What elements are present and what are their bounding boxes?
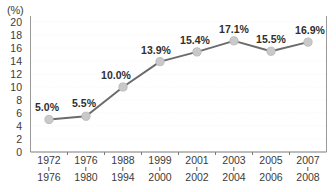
data-point-label: 5.5%: [72, 98, 96, 109]
x-axis-tick-label: 20012002: [185, 154, 208, 184]
data-point-label: 16.9%: [295, 25, 325, 36]
data-point-marker: [193, 48, 201, 56]
data-point-marker: [267, 47, 275, 55]
data-point-marker: [82, 112, 90, 120]
data-point-marker: [119, 83, 127, 91]
x-axis-tick-label: 19992000: [148, 154, 171, 184]
x-tick-year-start: 2001: [185, 154, 208, 167]
data-point-label: 5.0%: [35, 102, 59, 113]
x-tick-year-start: 1976: [74, 154, 97, 167]
x-axis-tick-label: 20052006: [259, 154, 282, 184]
x-axis-tick-label: 20032004: [222, 154, 245, 184]
data-point-label: 15.5%: [256, 34, 286, 45]
data-point-label: 10.0%: [101, 70, 131, 81]
x-tick-year-end: 2002: [185, 171, 208, 184]
data-point-marker: [45, 115, 53, 123]
line-chart: (%) 20181614121086420 5.0%5.5%10.0%13.9%…: [0, 0, 336, 192]
x-tick-year-end: 1994: [111, 171, 134, 184]
x-tick-year-end: 1976: [37, 171, 60, 184]
x-axis-tick-label: 19881994: [111, 154, 134, 184]
x-tick-year-start: 2003: [222, 154, 245, 167]
data-point-marker: [156, 58, 164, 66]
x-tick-year-end: 2006: [259, 171, 282, 184]
data-point-label: 15.4%: [180, 35, 210, 46]
data-point-label: 17.1%: [219, 24, 249, 35]
x-tick-year-start: 1972: [37, 154, 60, 167]
x-tick-year-start: 1999: [148, 154, 171, 167]
x-tick-year-start: 1988: [111, 154, 134, 167]
series-markers: [45, 37, 312, 124]
x-axis-tick-label: 19761980: [74, 154, 97, 184]
x-axis-tick-labels: 1972197619761980198819941999200020012002…: [0, 154, 336, 192]
x-axis-tick-label: 20072008: [296, 154, 319, 184]
x-tick-year-start: 2007: [296, 154, 319, 167]
data-point-marker: [304, 38, 312, 46]
x-tick-year-end: 1980: [74, 171, 97, 184]
x-tick-year-end: 2008: [296, 171, 319, 184]
data-point-marker: [230, 37, 238, 45]
x-tick-year-end: 2000: [148, 171, 171, 184]
data-point-label: 13.9%: [141, 45, 171, 56]
x-axis-tick-label: 19721976: [37, 154, 60, 184]
x-tick-year-start: 2005: [259, 154, 282, 167]
x-tick-year-end: 2004: [222, 171, 245, 184]
